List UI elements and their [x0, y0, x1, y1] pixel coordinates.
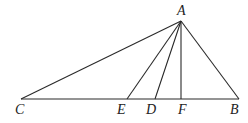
label-f: F — [177, 102, 187, 117]
diagram-canvas: A C E D F B — [0, 0, 248, 123]
label-e: E — [116, 102, 126, 117]
triangle-diagram: A C E D F B — [0, 0, 248, 123]
segments — [21, 21, 239, 99]
label-d: D — [145, 102, 156, 117]
segment-ac — [21, 21, 181, 99]
segment-ab — [181, 21, 239, 99]
segment-ad — [155, 21, 181, 99]
label-a: A — [176, 3, 186, 18]
segment-ae — [127, 21, 181, 99]
point-labels: A C E D F B — [15, 3, 239, 117]
label-c: C — [15, 102, 25, 117]
label-b: B — [230, 102, 239, 117]
